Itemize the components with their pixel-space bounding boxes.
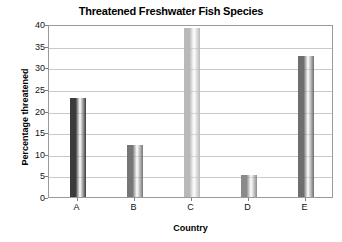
y-axis-tick-label: 35	[19, 43, 45, 52]
y-axis-tick-label: 10	[19, 151, 45, 160]
y-axis-tick-mark	[45, 198, 48, 199]
plot-area	[48, 25, 333, 198]
y-axis-tick-label: 30	[19, 64, 45, 73]
x-axis-tick-mark	[77, 198, 78, 201]
x-axis-tick-mark	[248, 198, 249, 201]
y-axis-tick-label: 5	[19, 172, 45, 181]
x-axis-tick-label: A	[57, 202, 97, 212]
bar-c	[184, 28, 200, 197]
bar-e	[298, 56, 314, 197]
x-axis-tick-label: E	[285, 202, 325, 212]
chart-title: Threatened Freshwater Fish Species	[0, 5, 342, 17]
x-axis-tick-label: C	[171, 202, 211, 212]
x-axis-tick-label: D	[228, 202, 268, 212]
x-axis-title: Country	[48, 223, 333, 233]
x-axis-tick-mark	[191, 198, 192, 201]
y-axis-tick-label: 25	[19, 86, 45, 95]
chart-container: Threatened Freshwater Fish Species Perce…	[0, 0, 342, 242]
bar-d	[241, 175, 257, 197]
x-axis-tick-label: B	[114, 202, 154, 212]
y-axis-tick-label: 20	[19, 108, 45, 117]
y-axis-tick-label: 0	[19, 194, 45, 203]
bar-a	[70, 98, 86, 197]
x-axis-tick-mark	[305, 198, 306, 201]
y-axis-tick-label: 15	[19, 129, 45, 138]
x-axis-tick-mark	[134, 198, 135, 201]
bar-b	[127, 145, 143, 197]
y-axis-tick-label: 40	[19, 21, 45, 30]
